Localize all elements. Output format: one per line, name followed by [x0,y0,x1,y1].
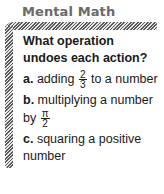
item-text-after: to a number [88,72,158,86]
item-c: c. squaring a positive number [23,131,161,165]
item-a: a. adding 23 to a number [23,70,161,89]
item-letter: b. [23,93,34,107]
hatched-border-left [5,26,13,168]
question-text: What operation undoes each action? [23,33,161,67]
item-text-before: adding [37,72,78,86]
fraction: 23 [79,70,87,89]
fraction-denominator: 3 [79,80,87,89]
fraction-denominator: 2 [41,119,50,128]
item-letter: c. [23,132,33,146]
item-text: squaring a positive number [23,132,141,163]
fraction: π2 [41,109,50,128]
item-letter: a. [23,72,33,86]
item-b: b. multiplying a number by π2 [23,92,161,128]
border-inner-corner [13,30,23,40]
mental-math-title: Mental Math [22,4,115,19]
hatched-border-top [5,22,157,30]
mental-math-content: What operation undoes each action? a. ad… [23,33,161,168]
